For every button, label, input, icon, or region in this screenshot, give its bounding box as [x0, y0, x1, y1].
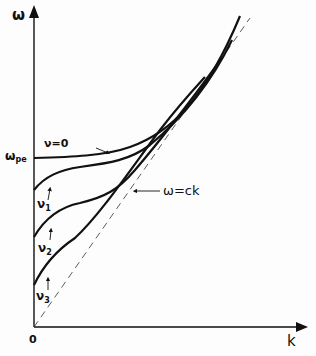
- omega-pe-label: ωpe: [5, 150, 27, 162]
- y-axis-label: ω: [12, 8, 25, 23]
- y-axis-arrow-icon: [29, 5, 39, 18]
- nu2-pointer: [50, 230, 51, 240]
- nu0-pointer: [96, 148, 108, 153]
- dispersion-diagram: ω k 0 ωpe ν=0 ν1 ν2 ν3 ω=ck: [0, 0, 316, 356]
- curve-label-nu1: ν1: [37, 198, 51, 210]
- x-axis: [34, 322, 308, 332]
- curve-nu3: [34, 77, 205, 285]
- origin-label: 0: [29, 334, 37, 345]
- x-axis-arrow-icon: [296, 322, 308, 332]
- x-axis-label: k: [287, 334, 296, 349]
- omega-pe-symbol: ω: [5, 149, 15, 163]
- curve-label-nu3: ν3: [36, 290, 50, 302]
- curve-label-nu0: ν=0: [44, 138, 68, 149]
- light-line-label: ω=ck: [163, 184, 199, 197]
- curve-label-nu2: ν2: [38, 242, 52, 254]
- omega-pe-subscript: pe: [15, 155, 26, 164]
